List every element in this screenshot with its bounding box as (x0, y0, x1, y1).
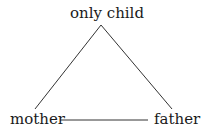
node-father: father (154, 112, 200, 127)
node-mother: mother (10, 112, 65, 127)
node-only-child: only child (70, 6, 144, 21)
edge-child-father (101, 25, 172, 109)
edge-child-mother (35, 25, 101, 109)
